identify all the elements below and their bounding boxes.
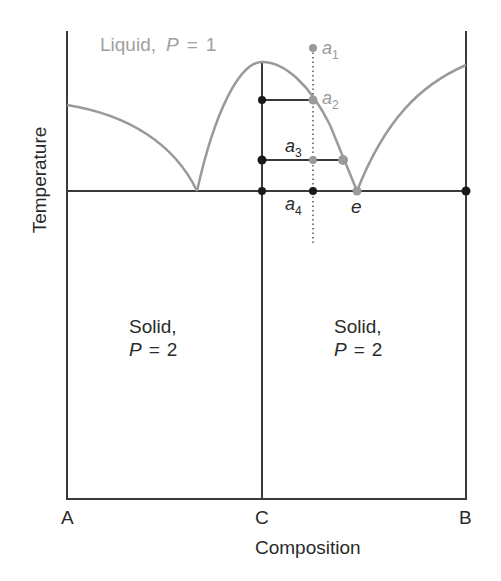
x-tick-c: C xyxy=(255,507,269,528)
y-axis-title: Temperature xyxy=(29,127,50,234)
solid-left-label-line1: Solid, xyxy=(129,316,177,337)
x-tick-a: A xyxy=(61,507,74,528)
liquidus-a3-dot xyxy=(338,155,348,165)
label-e: e xyxy=(351,196,362,217)
point-a1-dot xyxy=(309,44,317,52)
x-tick-b: B xyxy=(459,507,472,528)
label-a1: a1 xyxy=(322,38,339,62)
point-a4-dot xyxy=(309,187,317,195)
label-a3: a3 xyxy=(285,136,302,160)
liquid-region-label: Liquid,P=1 xyxy=(100,34,216,55)
x-axis-title: Composition xyxy=(255,537,361,558)
solid-right-label-line2: P=2 xyxy=(334,339,382,360)
right-axis-dot xyxy=(462,187,471,196)
liquidus-compound-peak xyxy=(197,62,357,191)
c-line-dot-a2 xyxy=(258,96,266,104)
label-a2: a2 xyxy=(322,88,339,112)
point-a2-dot xyxy=(309,96,318,105)
liquidus-right-b xyxy=(357,65,466,191)
point-e-dot xyxy=(353,187,362,196)
liquidus-left-a xyxy=(67,105,197,191)
point-a3-dot xyxy=(309,156,317,164)
phase-diagram: Liquid,P=1 Solid, P=2 Solid, P=2 a1 a2 a… xyxy=(0,0,501,581)
solid-left-label-line2: P=2 xyxy=(129,339,177,360)
label-a4: a4 xyxy=(285,194,302,218)
solid-right-label-line1: Solid, xyxy=(334,316,382,337)
c-line-dot-a3 xyxy=(258,156,267,165)
c-line-dot-eutectic xyxy=(258,187,266,195)
